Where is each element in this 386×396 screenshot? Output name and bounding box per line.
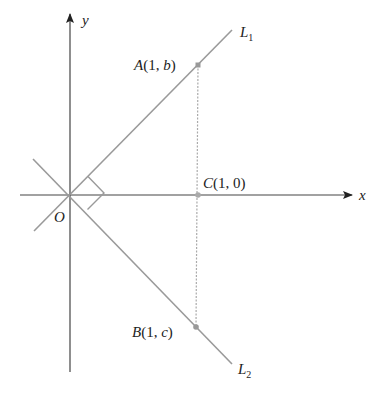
point-b [193, 324, 199, 330]
diagram-canvas: y x O L1 L2 A(1, b) C(1, 0) B(1, c) [0, 0, 386, 396]
point-b-label: B(1, c) [132, 324, 173, 341]
origin-label: O [54, 209, 65, 225]
l1-label: L1 [239, 24, 253, 43]
point-c-label: C(1, 0) [203, 175, 246, 192]
right-angle-marker [88, 177, 105, 210]
line-l1 [34, 30, 232, 231]
y-axis-label: y [80, 12, 89, 28]
point-a-label: A(1, b) [133, 57, 176, 74]
point-c [195, 192, 201, 198]
l2-label: L2 [237, 361, 251, 380]
point-a [196, 63, 201, 68]
x-axis-label: x [358, 187, 366, 203]
